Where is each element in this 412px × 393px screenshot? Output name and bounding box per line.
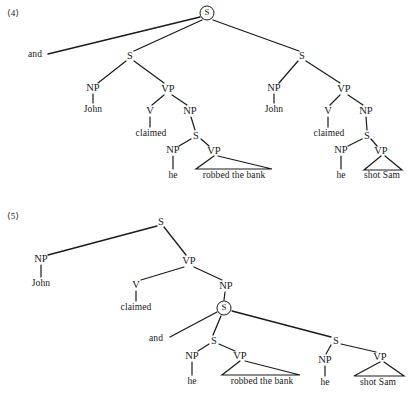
phrase-robbed-the-bank-ex4: robbed the bank [203, 171, 266, 181]
node-conj-right-vp-ex5[interactable]: VP [373, 352, 387, 363]
root-s-circled-label-ex4: S [204, 8, 209, 17]
edge5-s-rightconj [232, 311, 331, 337]
triangle5-shot-sam [354, 362, 404, 376]
conjunction-and-ex5: and [149, 334, 163, 344]
root-s-circled-node-ex4[interactable]: S [200, 6, 215, 21]
triangle5-robbed-the-bank [222, 361, 300, 375]
word-right-john-ex4: John [265, 105, 283, 115]
edge-root-to-right-s [213, 20, 299, 51]
diagram-canvas: ⟨4⟩ S and S NP John VP V claimed NP S NP… [0, 0, 412, 393]
node-conj-left-vp-ex5[interactable]: VP [233, 351, 247, 362]
edge5-rc-s-vp [341, 344, 376, 352]
node-v-ex5[interactable]: V [132, 280, 140, 291]
node-left-v-ex4[interactable]: V [146, 106, 154, 117]
edge-right-np-s [366, 117, 367, 130]
node-conj-right-s-ex5[interactable]: S [333, 336, 339, 347]
edge-right-s-np [279, 61, 298, 83]
edge5-np-s [224, 292, 225, 300]
node-right-s-ex4[interactable]: S [299, 51, 305, 62]
node-np-object-ex5[interactable]: NP [219, 281, 233, 292]
coordinated-s-circled-node-ex5[interactable]: S [217, 301, 232, 316]
word-conj-right-he-ex5: he [320, 378, 329, 388]
edge5-root-np [48, 226, 157, 255]
node-right-np-object-ex4[interactable]: NP [359, 106, 373, 117]
edge5-vp-np [194, 267, 222, 280]
node-right-v-ex4[interactable]: V [324, 106, 332, 117]
word-conj-left-he-ex5: he [187, 377, 196, 387]
edge-right-s-vp [306, 61, 340, 83]
node-left-s-ex4[interactable]: S [127, 51, 133, 62]
triangle-shot-sam [364, 156, 402, 170]
coordinated-s-circled-label-ex5: S [221, 303, 226, 312]
edge-root-to-and [48, 17, 200, 54]
word-john-ex5: John [32, 279, 50, 289]
edge-left-np-s [191, 117, 195, 130]
edge5-s-and [170, 312, 217, 337]
edge-right-vp-np [348, 95, 363, 105]
word-left-he-ex4: he [168, 171, 177, 181]
node-right-vp-ex4[interactable]: VP [337, 84, 351, 95]
phrase-shot-sam-ex5: shot Sam [360, 378, 396, 388]
node-left-np-subject-ex4[interactable]: NP [86, 83, 100, 94]
node-right-embedded-s-ex4[interactable]: S [364, 131, 370, 142]
edge-right-s2-np [348, 139, 362, 146]
node-left-embedded-vp-ex4[interactable]: VP [207, 146, 221, 157]
phrase-shot-sam-ex4: shot Sam [364, 171, 400, 181]
example-number-5: ⟨5⟩ [7, 212, 19, 221]
edge5-s-leftconj [213, 316, 221, 335]
example-number-4: ⟨4⟩ [7, 9, 19, 18]
edge5-vp-v [141, 267, 184, 280]
word-right-he-ex4: he [336, 171, 345, 181]
tree-edges [0, 0, 412, 393]
node-right-np-subject-ex4[interactable]: NP [267, 83, 281, 94]
phrase-robbed-the-bank-ex5: robbed the bank [231, 377, 294, 387]
edge-left-s-vp [134, 61, 164, 83]
node-left-np-object-ex4[interactable]: NP [183, 106, 197, 117]
word-left-john-ex4: John [84, 105, 102, 115]
edge-left-s2-np [179, 139, 191, 146]
node-conj-right-np-ex5[interactable]: NP [318, 355, 332, 366]
node-left-embedded-s-ex4[interactable]: S [193, 131, 199, 142]
edge-right-vp-v [330, 95, 340, 105]
word-right-claimed-ex4: claimed [314, 129, 345, 139]
edge5-rc-s-np [326, 345, 331, 354]
node-right-embedded-np-ex4[interactable]: NP [334, 145, 348, 156]
word-left-claimed-ex4: claimed [136, 129, 167, 139]
edge-left-vp-v [152, 95, 164, 105]
conjunction-and-ex4: and [28, 50, 42, 60]
edge5-lc-s-np [198, 344, 209, 351]
edge-left-vp-np [172, 95, 187, 105]
node-left-embedded-np-ex4[interactable]: NP [166, 145, 180, 156]
node-root-s-ex5[interactable]: S [158, 217, 164, 228]
triangle-robbed-the-bank [196, 156, 272, 169]
word-claimed-ex5: claimed [121, 303, 152, 313]
node-left-vp-ex4[interactable]: VP [161, 84, 175, 95]
edge5-root-vp [164, 227, 186, 255]
node-conj-left-s-ex5[interactable]: S [211, 336, 217, 347]
node-conj-left-np-ex5[interactable]: NP [185, 351, 199, 362]
edge-left-s-np [98, 61, 126, 83]
node-right-embedded-vp-ex4[interactable]: VP [374, 146, 388, 157]
node-vp-ex5[interactable]: VP [182, 256, 196, 267]
node-np-subject-ex5[interactable]: NP [34, 254, 48, 265]
